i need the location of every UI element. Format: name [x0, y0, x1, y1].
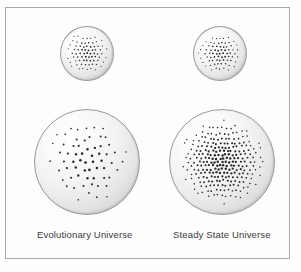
sphere-body	[169, 109, 275, 215]
label-evolutionary-universe: Evolutionary Universe	[37, 229, 133, 240]
sphere-body	[193, 26, 247, 81]
sphere-steady-state-early	[193, 26, 247, 81]
sphere-steady-state-later	[169, 109, 275, 215]
sphere-evolutionary-later	[34, 109, 140, 215]
figure-root: Evolutionary Universe Steady State Unive…	[0, 0, 301, 272]
label-steady-state-universe: Steady State Universe	[173, 229, 271, 240]
sphere-evolutionary-early	[60, 26, 114, 81]
sphere-body	[60, 26, 114, 81]
figure-frame: Evolutionary Universe Steady State Unive…	[5, 7, 290, 259]
sphere-body	[34, 109, 140, 215]
